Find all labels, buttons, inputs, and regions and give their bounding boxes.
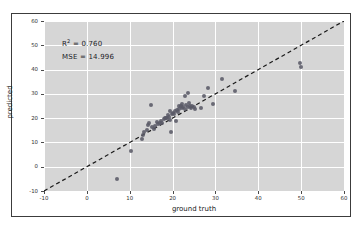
scatter-point bbox=[233, 89, 237, 93]
scatter-point bbox=[211, 102, 215, 106]
y-tick-mark bbox=[41, 70, 44, 71]
y-tick-label: 20 bbox=[18, 115, 38, 122]
x-tick-mark bbox=[87, 191, 88, 194]
scatter-point bbox=[149, 103, 153, 107]
gridline-vertical bbox=[215, 21, 216, 191]
gridline-horizontal bbox=[44, 167, 344, 168]
scatter-point bbox=[115, 177, 119, 181]
y-tick-mark bbox=[41, 167, 44, 168]
x-tick-label: 20 bbox=[161, 195, 185, 202]
x-tick-mark bbox=[44, 191, 45, 194]
x-tick-label: -10 bbox=[32, 195, 56, 202]
gridline-horizontal bbox=[44, 94, 344, 95]
y-tick-mark bbox=[41, 118, 44, 119]
gridline-horizontal bbox=[44, 142, 344, 143]
x-tick-label: 30 bbox=[203, 195, 227, 202]
y-tick-label: 0 bbox=[18, 163, 38, 170]
x-tick-label: 10 bbox=[118, 195, 142, 202]
x-tick-mark bbox=[215, 191, 216, 194]
annotation-r-squared: R2 = 0.760 bbox=[62, 38, 102, 48]
x-tick-label: 60 bbox=[332, 195, 356, 202]
gridline-horizontal bbox=[44, 21, 344, 22]
x-tick-mark bbox=[301, 191, 302, 194]
y-tick-label: 30 bbox=[18, 90, 38, 97]
y-tick-mark bbox=[41, 21, 44, 22]
x-tick-mark bbox=[130, 191, 131, 194]
y-tick-label: 40 bbox=[18, 66, 38, 73]
x-tick-label: 0 bbox=[75, 195, 99, 202]
scatter-point bbox=[199, 106, 203, 110]
annotation-mse-text: MSE = 14.996 bbox=[62, 53, 114, 61]
scatter-point bbox=[193, 107, 197, 111]
scatter-point bbox=[174, 119, 178, 123]
y-tick-mark bbox=[41, 45, 44, 46]
gridline-vertical bbox=[44, 21, 45, 191]
scatter-point bbox=[202, 94, 206, 98]
y-tick-mark bbox=[41, 142, 44, 143]
x-tick-mark bbox=[344, 191, 345, 194]
gridline-horizontal bbox=[44, 118, 344, 119]
gridline-vertical bbox=[258, 21, 259, 191]
y-axis-label: predicted bbox=[6, 62, 14, 142]
scatter-point bbox=[160, 121, 164, 125]
figure-canvas: -100102030405060 -100102030405060 ground… bbox=[0, 0, 362, 232]
x-tick-mark bbox=[173, 191, 174, 194]
y-tick-label: 50 bbox=[18, 42, 38, 49]
x-tick-mark bbox=[258, 191, 259, 194]
annotation-mse: MSE = 14.996 bbox=[62, 53, 114, 61]
gridline-vertical bbox=[130, 21, 131, 191]
y-tick-mark bbox=[41, 191, 44, 192]
annotation-r-squared-text: R2 = 0.760 bbox=[62, 40, 102, 48]
gridline-vertical bbox=[301, 21, 302, 191]
y-tick-label: 60 bbox=[18, 18, 38, 25]
x-axis-label: ground truth bbox=[44, 205, 344, 213]
y-tick-label: -10 bbox=[18, 188, 38, 195]
y-tick-mark bbox=[41, 94, 44, 95]
scatter-point bbox=[140, 137, 144, 141]
scatter-point bbox=[145, 128, 149, 132]
scatter-point bbox=[206, 86, 210, 90]
gridline-horizontal bbox=[44, 70, 344, 71]
x-tick-label: 40 bbox=[246, 195, 270, 202]
gridline-vertical bbox=[173, 21, 174, 191]
y-tick-label: 10 bbox=[18, 139, 38, 146]
scatter-point bbox=[129, 149, 133, 153]
scatter-point bbox=[220, 77, 224, 81]
x-tick-label: 50 bbox=[289, 195, 313, 202]
